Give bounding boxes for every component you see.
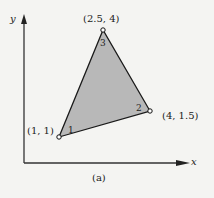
y-axis-label: y <box>10 14 16 24</box>
x-axis-arrow-icon <box>176 160 190 166</box>
y-axis-arrow-icon <box>21 14 27 24</box>
node-2-marker <box>148 109 152 113</box>
x-axis-label: x <box>191 157 197 167</box>
vertex-2-coords: (4, 1.5) <box>162 111 198 121</box>
y-axis <box>21 14 27 163</box>
vertex-3-coords: (2.5, 4) <box>83 14 119 24</box>
node-3-marker <box>101 28 105 32</box>
node-1-marker <box>57 135 61 139</box>
vertex-3-number: 3 <box>100 39 106 48</box>
x-axis <box>24 160 190 166</box>
triangle-diagram <box>0 0 214 198</box>
vertex-1-coords: (1, 1) <box>27 126 54 136</box>
vertex-2-number: 2 <box>136 104 142 113</box>
vertex-1-number: 1 <box>68 126 74 135</box>
figure-caption: (a) <box>92 173 106 183</box>
